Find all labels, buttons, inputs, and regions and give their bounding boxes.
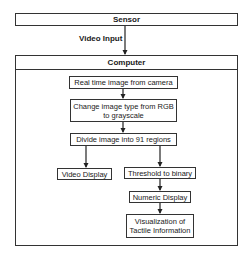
flow-arrows (0, 0, 248, 254)
